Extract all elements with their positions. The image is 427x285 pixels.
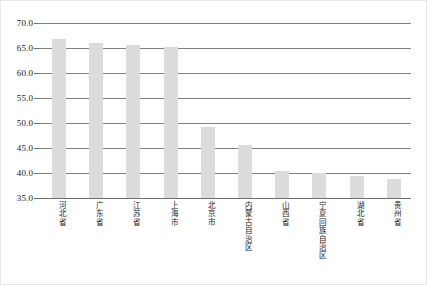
y-tick-label: 45.0 (17, 143, 33, 153)
x-category-label: 北京市 (201, 201, 214, 226)
bar (52, 39, 66, 198)
y-tick-label: 40.0 (17, 168, 33, 178)
plot-area: 70.065.060.055.050.045.040.035.0 (39, 23, 411, 198)
x-category-label: 河北省 (53, 201, 66, 226)
x-category-label: 山西省 (276, 201, 289, 226)
bar (238, 145, 252, 198)
x-category-label: 贵州省 (387, 201, 400, 226)
bar (387, 179, 401, 198)
bar (89, 43, 103, 198)
y-tick-label: 65.0 (17, 43, 33, 53)
x-category-label: 上海市 (164, 201, 177, 226)
x-axis-category-labels: 河北省广东省江苏省上海市北京市内蒙古自治区山西省宁夏回族自治区湖北省贵州省 (39, 201, 411, 285)
gridline (39, 198, 411, 199)
bar (275, 171, 289, 199)
y-tick-label: 60.0 (17, 68, 33, 78)
bar (350, 176, 364, 199)
bar (164, 47, 178, 199)
x-category-label: 广东省 (90, 201, 103, 226)
x-category-label: 江苏省 (127, 201, 140, 226)
x-category-label: 宁夏回族自治区 (313, 201, 326, 260)
bar-chart-figure: 70.065.060.055.050.045.040.035.0 河北省广东省江… (0, 0, 427, 285)
x-category-label: 湖北省 (350, 201, 363, 226)
x-category-label: 内蒙古自治区 (239, 201, 252, 251)
bar (126, 45, 140, 199)
bars-layer (39, 23, 411, 198)
bar (312, 173, 326, 198)
y-tick-mark (34, 198, 39, 199)
y-tick-label: 50.0 (17, 118, 33, 128)
y-tick-label: 35.0 (17, 193, 33, 203)
y-tick-label: 70.0 (17, 18, 33, 28)
y-tick-label: 55.0 (17, 93, 33, 103)
bar (201, 127, 215, 199)
